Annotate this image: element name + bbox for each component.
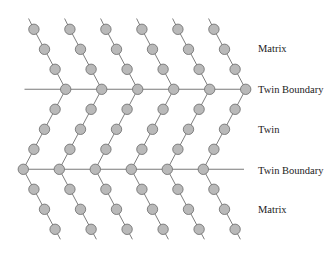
atom: [137, 144, 147, 154]
atom: [219, 44, 229, 54]
atom: [126, 164, 136, 174]
bonds-group: [23, 19, 245, 240]
atom: [65, 144, 75, 154]
atom: [60, 84, 70, 94]
atom: [194, 64, 204, 74]
atom: [230, 104, 240, 114]
atom: [50, 64, 60, 74]
atom: [29, 24, 39, 34]
atom: [65, 184, 75, 194]
atom: [230, 224, 240, 234]
atom: [39, 44, 49, 54]
atom: [147, 204, 157, 214]
atom: [50, 104, 60, 114]
atom: [86, 224, 96, 234]
atom: [111, 44, 121, 54]
atom: [194, 224, 204, 234]
atom: [147, 124, 157, 134]
atom: [209, 144, 219, 154]
atom: [173, 144, 183, 154]
atom: [194, 104, 204, 114]
atom: [65, 24, 75, 34]
atom: [162, 164, 172, 174]
label-twin-boundary-bottom: Twin Boundary: [258, 165, 323, 177]
atom: [205, 84, 215, 94]
atom: [111, 124, 121, 134]
atom: [219, 124, 229, 134]
atom: [158, 224, 168, 234]
atom: [209, 24, 219, 34]
atom: [241, 84, 251, 94]
label-matrix-bottom: Matrix: [258, 204, 287, 216]
atom: [173, 184, 183, 194]
atom: [173, 24, 183, 34]
atom: [75, 44, 85, 54]
atom: [54, 164, 64, 174]
atom: [209, 184, 219, 194]
atom: [97, 84, 107, 94]
atom: [50, 224, 60, 234]
atom: [75, 204, 85, 214]
atom: [75, 124, 85, 134]
atom: [86, 104, 96, 114]
atom: [137, 24, 147, 34]
atom: [39, 204, 49, 214]
atom: [219, 204, 229, 214]
atom: [230, 64, 240, 74]
atom: [183, 124, 193, 134]
atom: [122, 64, 132, 74]
atom: [183, 44, 193, 54]
atom: [90, 164, 100, 174]
atom: [101, 144, 111, 154]
atom: [158, 64, 168, 74]
atom: [133, 84, 143, 94]
atom: [111, 204, 121, 214]
atom: [137, 184, 147, 194]
atom: [101, 24, 111, 34]
atom: [198, 164, 208, 174]
atom: [101, 184, 111, 194]
atom: [169, 84, 179, 94]
atom: [29, 184, 39, 194]
atom: [147, 44, 157, 54]
atom: [183, 204, 193, 214]
atom: [39, 124, 49, 134]
label-twin: Twin: [258, 124, 279, 136]
atom: [29, 144, 39, 154]
atom: [18, 164, 28, 174]
label-matrix-top: Matrix: [258, 43, 287, 55]
label-twin-boundary-top: Twin Boundary: [258, 84, 323, 96]
atom: [122, 224, 132, 234]
atom: [122, 104, 132, 114]
atom: [86, 64, 96, 74]
atoms-group: [18, 24, 251, 234]
atom: [158, 104, 168, 114]
